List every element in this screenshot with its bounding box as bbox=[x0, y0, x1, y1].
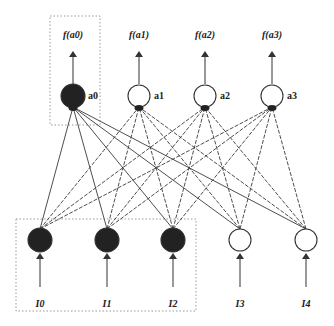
junction-dot bbox=[201, 105, 210, 111]
neural-network-diagram: f(a0)f(a1)f(a2)f(a3)I0I1I2I3I4a0a1a2a3 bbox=[0, 0, 334, 326]
output-node-label: a3 bbox=[287, 90, 297, 101]
input-label: I0 bbox=[35, 298, 45, 309]
edge-I4-a2 bbox=[205, 107, 306, 229]
input-node-I3 bbox=[229, 229, 251, 251]
output-node-a3 bbox=[261, 85, 283, 107]
edge-I2-a0 bbox=[73, 107, 173, 229]
input-label: I2 bbox=[168, 298, 178, 309]
output-node-a2 bbox=[194, 85, 216, 107]
input-node-I2 bbox=[161, 228, 185, 252]
output-node-label: a2 bbox=[220, 90, 230, 101]
input-node-I0 bbox=[28, 228, 52, 252]
junction-dot bbox=[69, 105, 78, 111]
input-node-I1 bbox=[95, 228, 119, 252]
output-node-label: a0 bbox=[88, 90, 98, 101]
output-function-label: f(a1) bbox=[129, 29, 149, 41]
output-node-a1 bbox=[128, 85, 150, 107]
output-function-label: f(a2) bbox=[195, 29, 215, 41]
output-node-a0 bbox=[61, 84, 85, 108]
edge-I3-a2 bbox=[205, 107, 240, 229]
input-node-I4 bbox=[295, 229, 317, 251]
input-label: I3 bbox=[235, 298, 245, 309]
output-function-label: f(a0) bbox=[63, 29, 83, 41]
network-svg: f(a0)f(a1)f(a2)f(a3)I0I1I2I3I4a0a1a2a3 bbox=[0, 0, 334, 326]
junction-dot bbox=[135, 105, 144, 111]
output-function-label: f(a3) bbox=[262, 29, 282, 41]
junction-dot bbox=[268, 105, 277, 111]
edge-I3-a0 bbox=[73, 107, 240, 229]
input-label: I1 bbox=[102, 298, 112, 309]
edge-I4-a0 bbox=[73, 107, 306, 229]
output-node-label: a1 bbox=[154, 90, 164, 101]
edge-I0-a0 bbox=[40, 107, 73, 229]
input-label: I4 bbox=[301, 298, 311, 309]
edge-I4-a3 bbox=[272, 107, 306, 229]
